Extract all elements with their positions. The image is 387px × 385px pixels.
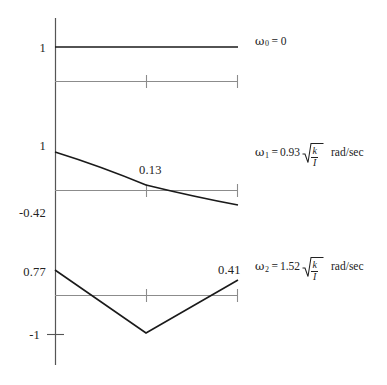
coefficient: 0.93 <box>279 147 301 159</box>
omega-symbol: ω <box>255 36 264 48</box>
mode-1-frequency: ω1=0.93 k I rad/sec <box>255 142 364 164</box>
coefficient: 1.52 <box>279 261 301 273</box>
mode1-amplitude-neg042: -0.42 <box>0 206 46 221</box>
plot-canvas <box>0 0 387 385</box>
omega-subscript: 1 <box>264 152 270 160</box>
fraction-k-over-I: k I <box>311 146 318 169</box>
square-root-icon: k I <box>302 142 324 164</box>
panel-mode-2 <box>55 270 238 333</box>
omega-symbol: ω <box>255 261 264 273</box>
omega-symbol: ω <box>255 147 264 159</box>
mode1-amplitude-1: 1 <box>6 139 46 154</box>
mode2-amplitude-neg1: -1 <box>0 328 40 343</box>
mode-shape-curve-1 <box>55 152 238 205</box>
omega-subscript: 2 <box>264 266 270 274</box>
mode-2-frequency: ω2=1.52 k I rad/sec <box>255 256 364 278</box>
equals-sign: = <box>270 261 279 273</box>
mode2-amplitude-077: 0.77 <box>0 265 46 280</box>
fraction-denominator: I <box>312 158 318 169</box>
panel-mode-1 <box>55 152 238 205</box>
mode-0-frequency: ω0= 0 <box>255 36 288 48</box>
mode2-value-041: 0.41 <box>218 263 241 278</box>
fraction-k-over-I: k I <box>311 260 318 283</box>
panel-mode-0 <box>55 47 238 88</box>
units-label: rad/sec <box>326 147 364 159</box>
equals-expression: = 0 <box>270 36 287 48</box>
equals-sign: = <box>270 147 279 159</box>
square-root-icon: k I <box>302 256 324 278</box>
units-label: rad/sec <box>326 261 364 273</box>
omega-subscript: 0 <box>264 40 270 48</box>
fraction-numerator: k <box>311 260 318 271</box>
fraction-denominator: I <box>312 272 318 283</box>
fraction-numerator: k <box>311 146 318 157</box>
mode-shape-figure: 1 1 -0.42 0.77 -1 0.13 0.41 ω0= 0 ω1=0.9… <box>0 0 387 385</box>
mode1-value-013: 0.13 <box>139 163 162 178</box>
mode0-amplitude-1: 1 <box>6 41 46 56</box>
